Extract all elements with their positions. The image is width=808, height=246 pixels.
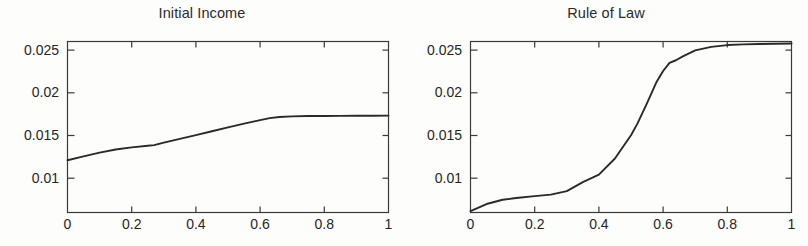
axes-frame bbox=[471, 42, 792, 213]
chart-panel-rule-of-law: Rule of Law bbox=[404, 0, 808, 246]
y-tick-label-0: 0.01 bbox=[4, 170, 59, 186]
x-tick-label-2: 0.4 bbox=[579, 216, 619, 232]
data-line-rule-of-law bbox=[471, 43, 792, 211]
x-tick-label-4: 0.8 bbox=[304, 216, 344, 232]
x-tick-label-5: 1 bbox=[772, 216, 808, 232]
y-tick-marks-right bbox=[383, 50, 389, 178]
x-tick-marks-top bbox=[535, 42, 728, 48]
y-tick-label-1: 0.015 bbox=[407, 127, 462, 143]
x-tick-label-1: 0.2 bbox=[112, 216, 152, 232]
x-tick-marks-bottom bbox=[132, 207, 325, 213]
plot-area-rule-of-law bbox=[404, 0, 808, 246]
x-tick-label-0: 0 bbox=[48, 216, 88, 232]
x-tick-label-0: 0 bbox=[451, 216, 491, 232]
x-tick-marks-top bbox=[132, 42, 325, 48]
x-tick-label-5: 1 bbox=[369, 216, 409, 232]
x-tick-label-3: 0.6 bbox=[240, 216, 280, 232]
y-tick-label-2: 0.02 bbox=[407, 84, 462, 100]
figure-container: Initial Income bbox=[0, 0, 808, 246]
plot-area-initial-income bbox=[0, 0, 404, 246]
x-tick-label-2: 0.4 bbox=[176, 216, 216, 232]
x-tick-label-3: 0.6 bbox=[643, 216, 683, 232]
data-line-initial-income bbox=[68, 116, 389, 161]
y-tick-marks-left bbox=[471, 50, 478, 178]
x-tick-marks-bottom bbox=[535, 207, 728, 213]
y-tick-marks-right bbox=[786, 50, 792, 178]
y-tick-label-1: 0.015 bbox=[4, 127, 59, 143]
y-tick-label-2: 0.02 bbox=[4, 84, 59, 100]
x-tick-label-1: 0.2 bbox=[515, 216, 555, 232]
x-tick-label-4: 0.8 bbox=[707, 216, 747, 232]
y-tick-label-0: 0.01 bbox=[407, 170, 462, 186]
chart-panel-initial-income: Initial Income bbox=[0, 0, 404, 246]
y-tick-label-3: 0.025 bbox=[4, 42, 59, 58]
y-tick-label-3: 0.025 bbox=[407, 42, 462, 58]
